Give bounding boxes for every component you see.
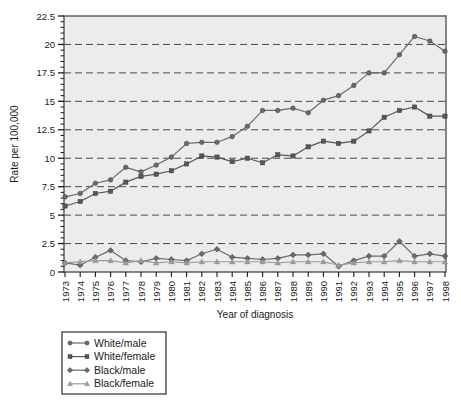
data-point [306, 110, 311, 115]
data-point [443, 49, 448, 54]
y-tick-label: 17.5 [37, 67, 56, 78]
data-point [382, 115, 386, 119]
data-point [428, 114, 432, 118]
x-tick-label: 1990 [318, 281, 329, 302]
x-tick-label: 1995 [394, 281, 405, 302]
data-point [336, 141, 340, 145]
data-point [352, 83, 357, 88]
legend-label: White/male [94, 337, 147, 349]
x-tick-label: 1998 [440, 281, 451, 302]
data-point [428, 39, 433, 44]
data-point [184, 141, 189, 146]
y-axis-title: Rate per 100,000 [9, 105, 20, 183]
data-point [93, 191, 97, 195]
data-point [124, 165, 129, 170]
data-point [215, 155, 219, 159]
data-point [260, 161, 264, 165]
x-tick-label: 1992 [348, 281, 359, 302]
x-tick-label: 1993 [364, 281, 375, 302]
data-point [352, 139, 356, 143]
data-point [78, 191, 83, 196]
data-point [443, 114, 447, 118]
x-tick-label: 1977 [120, 281, 131, 302]
legend-label: White/female [94, 350, 155, 362]
x-tick-label: 1980 [166, 281, 177, 302]
x-tick-label: 1997 [424, 281, 435, 302]
data-point [154, 163, 159, 168]
x-tick-label: 1988 [288, 281, 299, 302]
y-tick-label: 0 [50, 267, 55, 278]
x-tick-label: 1973 [60, 281, 71, 302]
data-point [78, 199, 82, 203]
line-chart: 02.557.51012.51517.52022.519731974197519… [0, 0, 461, 400]
x-tick-label: 1975 [90, 281, 101, 302]
data-point [321, 98, 326, 103]
data-point [276, 108, 281, 113]
x-tick-label: 1991 [333, 281, 344, 302]
data-point [200, 154, 204, 158]
x-tick-label: 1996 [409, 281, 420, 302]
x-tick-label: 1978 [136, 281, 147, 302]
data-point [397, 108, 401, 112]
y-tick-label: 20 [44, 39, 55, 50]
data-point [108, 189, 112, 193]
data-point [321, 139, 325, 143]
data-point [367, 129, 371, 133]
x-axis-title: Year of diagnosis [217, 309, 293, 320]
x-tick-label: 1979 [151, 281, 162, 302]
data-point [245, 124, 250, 129]
data-point [412, 34, 417, 39]
data-point [124, 180, 128, 184]
data-point [63, 204, 67, 208]
y-tick-label: 12.5 [37, 124, 56, 135]
data-point [139, 170, 144, 175]
y-tick-label: 15 [44, 96, 55, 107]
data-point [336, 93, 341, 98]
data-point [260, 108, 265, 113]
data-point [169, 169, 173, 173]
data-point [306, 145, 310, 149]
data-point [382, 71, 387, 76]
data-point [108, 178, 113, 183]
data-point [63, 195, 68, 200]
x-tick-label: 1989 [303, 281, 314, 302]
x-tick-label: 1987 [272, 281, 283, 302]
data-point [230, 134, 235, 139]
x-tick-label: 1994 [379, 281, 390, 302]
x-tick-label: 1982 [196, 281, 207, 302]
legend-marker [68, 341, 72, 345]
x-tick-label: 1984 [227, 281, 238, 302]
y-tick-label: 10 [44, 153, 55, 164]
legend-marker [85, 341, 89, 345]
legend-marker [85, 355, 89, 359]
data-point [139, 174, 143, 178]
data-point [230, 160, 234, 164]
x-tick-label: 1986 [257, 281, 268, 302]
data-point [184, 162, 188, 166]
x-tick-label: 1983 [212, 281, 223, 302]
data-point [291, 106, 296, 111]
data-point [200, 140, 205, 145]
data-point [154, 172, 158, 176]
legend-marker [68, 355, 72, 359]
data-point [367, 71, 372, 76]
plot-area-background [64, 16, 446, 272]
data-point [412, 105, 416, 109]
data-point [93, 181, 98, 186]
y-tick-label: 5 [50, 210, 55, 221]
y-tick-label: 2.5 [42, 238, 55, 249]
x-tick-label: 1974 [75, 281, 86, 302]
chart-figure: 02.557.51012.51517.52022.519731974197519… [0, 0, 461, 400]
data-point [215, 140, 220, 145]
data-point [245, 156, 249, 160]
y-tick-label: 7.5 [42, 181, 55, 192]
data-point [397, 52, 402, 57]
x-tick-label: 1985 [242, 281, 253, 302]
y-tick-label: 22.5 [37, 11, 56, 22]
data-point [276, 153, 280, 157]
x-tick-label: 1981 [181, 281, 192, 302]
data-point [169, 155, 174, 160]
legend: White/maleWhite/femaleBlack/maleBlack/fe… [62, 332, 166, 394]
legend-label: Black/female [94, 377, 154, 389]
data-point [291, 154, 295, 158]
